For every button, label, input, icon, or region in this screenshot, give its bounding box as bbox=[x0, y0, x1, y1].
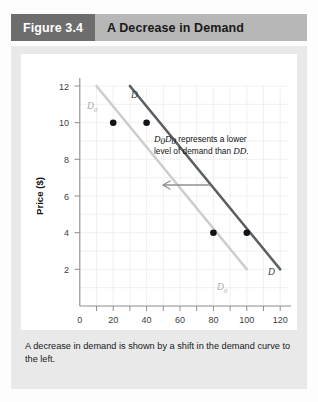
demand-curve-chart: 12 10 8 6 4 2 Price ($) bbox=[21, 54, 297, 330]
y-tick-label-2: 2 bbox=[64, 265, 69, 275]
figure-container: Figure 3.4 A Decrease in Demand bbox=[0, 0, 318, 402]
plot-card: 12 10 8 6 4 2 Price ($) bbox=[21, 54, 297, 330]
curve-label-d0-top: D0 bbox=[86, 101, 98, 113]
curve-label-d0-bottom: D0 bbox=[216, 282, 228, 294]
data-point-d0-20-10 bbox=[110, 119, 117, 126]
shift-arrow bbox=[163, 181, 210, 189]
y-tick-label-6: 6 bbox=[64, 192, 69, 202]
x-tick-label-100: 100 bbox=[239, 315, 254, 325]
x-tick-label-80: 80 bbox=[208, 315, 218, 325]
data-point-d-40-10 bbox=[143, 119, 150, 126]
y-tick-label-10: 10 bbox=[59, 118, 69, 128]
x-tick-label-120: 120 bbox=[273, 315, 288, 325]
y-tick-label-4: 4 bbox=[64, 228, 69, 238]
grid-horizontal bbox=[80, 86, 289, 288]
x-tick-label-0: 0 bbox=[77, 315, 82, 325]
curve-label-d-bottom: D bbox=[267, 267, 275, 277]
figure-caption: A decrease in demand is shown by a shift… bbox=[25, 340, 291, 366]
data-point-d-100-4 bbox=[244, 229, 251, 236]
x-tick-label-40: 40 bbox=[142, 315, 152, 325]
y-tick-label-12: 12 bbox=[59, 82, 69, 92]
data-point-d0-80-4 bbox=[210, 229, 217, 236]
curve-label-d-top: D bbox=[130, 90, 138, 100]
figure-title: A Decrease in Demand bbox=[107, 14, 244, 41]
x-tick-label-20: 20 bbox=[108, 315, 118, 325]
annotation-line-2: level of demand than DD. bbox=[154, 146, 249, 156]
figure-number-badge: Figure 3.4 bbox=[11, 14, 95, 41]
annotation-line-1: D0D0 represents a lower bbox=[153, 134, 247, 146]
figure-body-panel: 12 10 8 6 4 2 Price ($) bbox=[11, 46, 307, 389]
y-tick-label-8: 8 bbox=[64, 155, 69, 165]
x-axis-ticks bbox=[97, 306, 281, 311]
figure-header: Figure 3.4 A Decrease in Demand bbox=[11, 14, 307, 41]
y-axis-ticks bbox=[75, 86, 80, 269]
x-tick-label-60: 60 bbox=[175, 315, 185, 325]
y-axis-title: Price ($) bbox=[34, 177, 45, 215]
